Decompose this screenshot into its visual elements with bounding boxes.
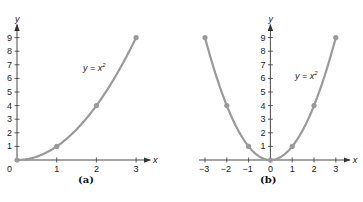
- y-tick-label: 7: [260, 60, 265, 70]
- y-tick-label: 3: [7, 114, 12, 124]
- y-tick-label: 1: [7, 141, 12, 151]
- data-point: [311, 103, 316, 108]
- x-tick-label: 3: [134, 164, 139, 174]
- data-point: [54, 144, 59, 149]
- x-tick-label: 1: [54, 164, 59, 174]
- x-tick-label: 2: [94, 164, 99, 174]
- figure: xy0123123456789y = x2 xy−3−2−10123123456…: [0, 0, 363, 202]
- x-axis-name: x: [352, 155, 358, 165]
- y-tick-label: 2: [260, 128, 265, 138]
- x-tick-label: 0: [268, 164, 273, 174]
- data-point: [224, 103, 229, 108]
- y-tick-label: 6: [260, 73, 265, 83]
- parabola-curve: [17, 38, 136, 160]
- y-tick-label: 5: [7, 87, 12, 97]
- y-tick-label: 4: [260, 101, 265, 111]
- panel-a-chart: xy0123123456789y = x2: [7, 14, 158, 174]
- data-point: [94, 103, 99, 108]
- y-axis-name: y: [267, 14, 273, 24]
- y-tick-label: 4: [7, 101, 12, 111]
- equation-label: y = x2: [82, 62, 106, 73]
- x-tick-label: −2: [221, 164, 231, 174]
- y-tick-label: 1: [260, 141, 265, 151]
- y-tick-label: 7: [7, 60, 12, 70]
- panel-b-label: (b): [260, 174, 276, 185]
- x-tick-label: 3: [333, 164, 338, 174]
- data-point: [246, 144, 251, 149]
- y-tick-label: 9: [260, 33, 265, 43]
- x-tick-label: −1: [243, 164, 253, 174]
- x-axis-name: x: [152, 155, 158, 165]
- data-point: [290, 144, 295, 149]
- x-tick-label: 0: [7, 164, 12, 174]
- y-tick-label: 2: [7, 128, 12, 138]
- y-tick-label: 9: [7, 33, 12, 43]
- x-tick-label: 1: [290, 164, 295, 174]
- x-tick-label: 2: [312, 164, 317, 174]
- data-point: [333, 35, 338, 40]
- data-point: [134, 35, 139, 40]
- panel-b-chart: xy−3−2−10123123456789y = x2: [199, 14, 358, 174]
- y-tick-label: 5: [260, 87, 265, 97]
- x-tick-label: −3: [199, 164, 209, 174]
- y-tick-label: 3: [260, 114, 265, 124]
- panel-a-label: (a): [78, 174, 94, 185]
- y-tick-label: 6: [7, 73, 12, 83]
- y-axis-name: y: [14, 14, 20, 24]
- data-point: [14, 157, 19, 162]
- equation-label: y = x2: [294, 70, 318, 81]
- data-point: [202, 35, 207, 40]
- y-tick-label: 8: [7, 46, 12, 56]
- y-tick-label: 8: [260, 46, 265, 56]
- data-point: [268, 157, 273, 162]
